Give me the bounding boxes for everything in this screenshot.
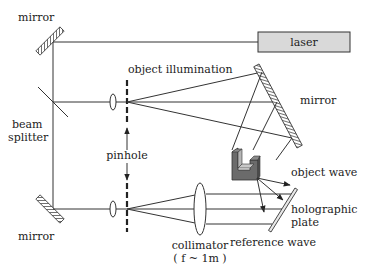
collimator-label: collimator <box>172 239 229 252</box>
pinhole-label: pinhole <box>106 149 147 162</box>
object <box>232 148 260 180</box>
beam-reflect-1 <box>232 72 262 150</box>
beam-splitter-label-2: splitter <box>8 131 49 144</box>
lens-upper <box>110 94 116 110</box>
mirror-right-label: mirror <box>300 94 337 107</box>
beam-diverge-1 <box>127 72 262 102</box>
beam-splitter-label-1: beam <box>12 118 43 131</box>
laser: laser <box>258 32 350 52</box>
object-wave-label: object wave <box>291 166 357 179</box>
laser-label: laser <box>290 36 318 49</box>
holographic-plate-label-1: holographic <box>291 203 358 216</box>
beam-ref-diverge-3 <box>127 209 200 224</box>
reference-wave-label: reference wave <box>230 236 316 249</box>
holography-diagram: mirror laser beam splitter object illumi… <box>0 0 365 272</box>
lens-lower <box>110 201 116 217</box>
mirror-top-left-label: mirror <box>18 11 55 24</box>
beam-diverge-3 <box>127 102 292 138</box>
holographic-plate-label-2: plate <box>291 216 319 229</box>
beam-reflect-2 <box>253 102 277 150</box>
beam-ref-diverge-1 <box>127 194 200 209</box>
mirror-bottom-left-label: mirror <box>18 230 55 243</box>
collimator-lens <box>194 183 206 235</box>
collimator-focal-label: ( f ~ 1m ) <box>173 252 226 265</box>
mirror-top-left <box>36 27 64 55</box>
object-wave-arrow-1 <box>257 178 290 185</box>
beam-reflect-3 <box>276 138 292 160</box>
object-illumination-label: object illumination <box>128 63 233 76</box>
